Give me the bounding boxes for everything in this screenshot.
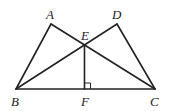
segment-DC	[117, 24, 155, 89]
label-D: D	[111, 7, 122, 22]
label-E: E	[80, 28, 89, 43]
right-angle-mark	[84, 83, 90, 89]
label-F: F	[80, 94, 90, 109]
label-C: C	[150, 94, 159, 109]
marks-group	[84, 83, 90, 89]
label-A: A	[45, 7, 54, 22]
geometry-figure: A D E B F C	[0, 0, 169, 111]
segment-AB	[16, 24, 51, 89]
label-B: B	[11, 94, 19, 109]
